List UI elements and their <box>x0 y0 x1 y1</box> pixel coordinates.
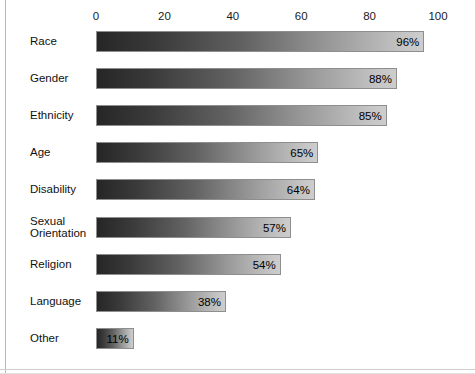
category-label: Disability <box>30 183 92 196</box>
bar-track: 57% <box>96 217 291 238</box>
bar-row: Disability64% <box>0 179 475 200</box>
category-label: Race <box>30 35 92 48</box>
bar-track: 65% <box>96 142 318 163</box>
bar-value-label: 85% <box>359 109 382 123</box>
category-label: Other <box>30 332 92 345</box>
bar: 85% <box>96 105 387 126</box>
category-label: Language <box>30 295 92 308</box>
bar-track: 88% <box>96 68 397 89</box>
bar: 11% <box>96 328 134 349</box>
bar-track: 85% <box>96 105 387 126</box>
plot-area: Race96%Gender88%Ethnicity85%Age65%Disabi… <box>0 0 475 374</box>
bar-row: Age65% <box>0 142 475 163</box>
bar-row: Religion54% <box>0 254 475 275</box>
category-label: Age <box>30 146 92 159</box>
bar-value-label: 64% <box>287 183 310 197</box>
bar-row: Gender88% <box>0 68 475 89</box>
bar: 57% <box>96 217 291 238</box>
bar-value-label: 11% <box>106 332 128 346</box>
bar: 54% <box>96 254 281 275</box>
bar-value-label: 65% <box>290 146 313 160</box>
category-label: Gender <box>30 72 92 85</box>
bar-row: Other11% <box>0 328 475 349</box>
bar-chart: 020406080100 Race96%Gender88%Ethnicity85… <box>0 0 475 374</box>
bar-row: Race96% <box>0 31 475 52</box>
bar-track: 96% <box>96 31 424 52</box>
bar-value-label: 96% <box>396 35 419 49</box>
bar-value-label: 38% <box>198 295 221 309</box>
bar-row: Language38% <box>0 291 475 312</box>
bar: 96% <box>96 31 424 52</box>
bar: 64% <box>96 179 315 200</box>
category-label: Ethnicity <box>30 109 92 122</box>
bar-row: Sexual Orientation57% <box>0 217 475 238</box>
bar-track: 54% <box>96 254 281 275</box>
bar-row: Ethnicity85% <box>0 105 475 126</box>
bar: 38% <box>96 291 226 312</box>
bar-track: 11% <box>96 328 134 349</box>
bar-value-label: 57% <box>263 221 286 235</box>
bar-value-label: 88% <box>369 72 392 86</box>
category-label: Sexual Orientation <box>30 215 92 240</box>
bar-track: 64% <box>96 179 315 200</box>
bar: 65% <box>96 142 318 163</box>
category-label: Religion <box>30 258 92 271</box>
bar-track: 38% <box>96 291 226 312</box>
bar-value-label: 54% <box>253 258 276 272</box>
bar: 88% <box>96 68 397 89</box>
